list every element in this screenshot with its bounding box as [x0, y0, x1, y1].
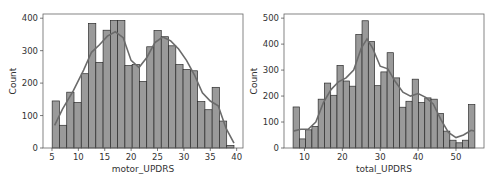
histogram-bar — [312, 126, 318, 148]
histogram-bar — [125, 66, 132, 148]
histogram-bar — [110, 20, 117, 148]
histogram-bar — [299, 139, 305, 148]
histogram-bar — [412, 79, 418, 148]
x-axis-label: motor_UPDRS — [112, 164, 175, 174]
y-axis-label: Count — [8, 67, 18, 94]
histogram-bar — [154, 31, 161, 148]
histogram-bar — [425, 98, 431, 148]
histogram-bar — [161, 37, 168, 148]
histogram-bar — [176, 65, 183, 148]
x-tick-label: 40 — [231, 152, 242, 162]
histogram-bar — [406, 101, 412, 148]
x-tick-label: 5 — [49, 152, 54, 162]
histogram-bar — [331, 95, 337, 148]
histogram-bar — [183, 69, 190, 148]
total-updrs-histogram: 10203040500100200300400500total_UPDRSCou… — [249, 13, 484, 174]
histogram-bar — [469, 105, 475, 148]
histogram-bar — [74, 103, 81, 148]
histogram-bar — [387, 53, 393, 148]
y-tick-label: 200 — [263, 91, 279, 101]
histogram-bar — [198, 102, 205, 148]
histogram-bar — [375, 86, 381, 148]
histogram-bar — [450, 140, 456, 148]
x-tick-label: 10 — [73, 152, 84, 162]
x-tick-label: 50 — [451, 152, 462, 162]
x-tick-label: 25 — [152, 152, 163, 162]
histogram-bar — [147, 47, 154, 148]
histogram-bar — [169, 46, 176, 148]
histogram-bar — [96, 62, 103, 148]
histogram-bar — [306, 130, 312, 148]
motor-updrs-histogram: 5101520253035400100200300400motor_UPDRSC… — [8, 13, 243, 174]
x-tick-label: 10 — [299, 152, 310, 162]
histogram-bar — [205, 110, 212, 148]
y-tick-label: 200 — [22, 78, 38, 88]
y-tick-label: 100 — [22, 111, 38, 121]
histogram-bar — [212, 87, 219, 148]
histogram-bar — [59, 125, 66, 148]
histogram-bar — [293, 107, 299, 148]
histogram-bar — [190, 71, 197, 148]
histogram-bar — [350, 86, 356, 148]
histogram-bar — [81, 74, 88, 148]
y-tick-label: 300 — [22, 46, 38, 56]
y-axis-label: Count — [249, 67, 259, 94]
histogram-figure: 5101520253035400100200300400motor_UPDRSC… — [0, 0, 491, 183]
y-tick-label: 300 — [263, 65, 279, 75]
histogram-bar — [132, 65, 139, 148]
x-tick-label: 35 — [205, 152, 216, 162]
x-tick-label: 30 — [178, 152, 189, 162]
x-tick-label: 15 — [99, 152, 110, 162]
histogram-bar — [368, 42, 374, 148]
histogram-bar — [337, 65, 343, 148]
x-axis-label: total_UPDRS — [356, 164, 412, 174]
histogram-bar — [89, 23, 96, 148]
histogram-bar — [343, 81, 349, 148]
y-tick-label: 400 — [263, 39, 279, 49]
histogram-bar — [381, 72, 387, 148]
y-tick-label: 400 — [22, 13, 38, 23]
histogram-bar — [356, 35, 362, 148]
histogram-bar — [103, 30, 110, 148]
histogram-bar — [418, 103, 424, 148]
y-tick-label: 100 — [263, 117, 279, 127]
histogram-bar — [139, 81, 146, 148]
histogram-bar — [462, 140, 468, 148]
histogram-bar — [456, 143, 462, 148]
x-tick-label: 20 — [337, 152, 348, 162]
y-tick-label: 0 — [274, 143, 279, 153]
y-tick-label: 500 — [263, 13, 279, 23]
x-tick-label: 40 — [413, 152, 424, 162]
histogram-bar — [400, 107, 406, 148]
x-tick-label: 30 — [375, 152, 386, 162]
y-tick-label: 0 — [33, 143, 38, 153]
x-tick-label: 20 — [126, 152, 137, 162]
histogram-bar — [393, 78, 399, 148]
